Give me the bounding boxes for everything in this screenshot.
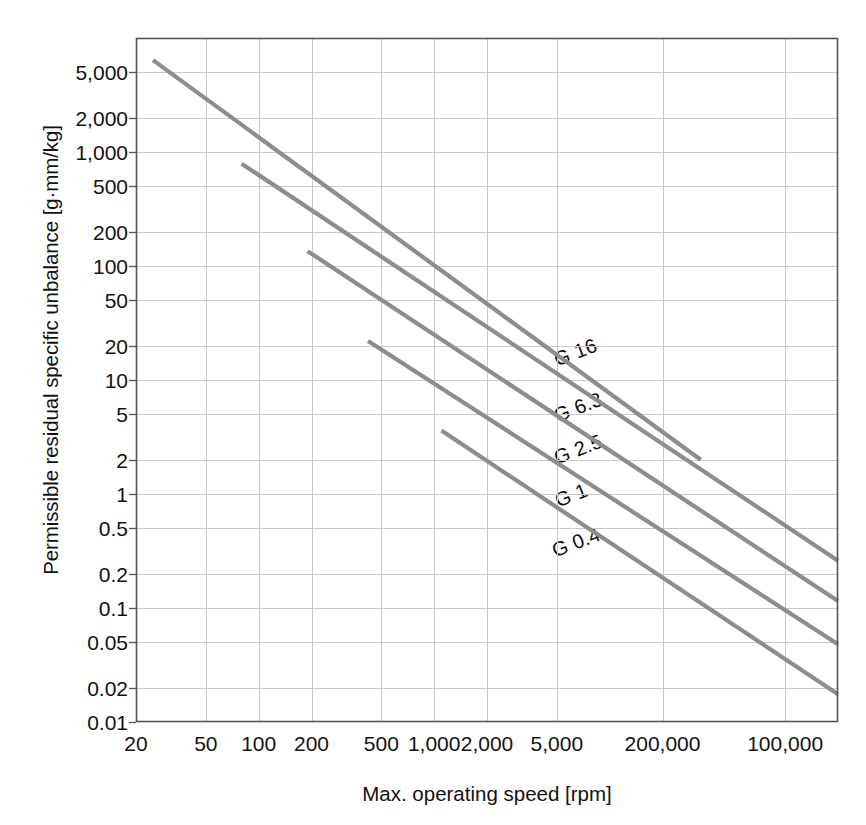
y-axis-tick-label: 2: [56, 449, 128, 470]
y-axis-tick-label: 20: [56, 335, 128, 356]
y-axis-tick-label: 2,000: [56, 107, 128, 128]
y-axis-tick-label: 500: [56, 176, 128, 197]
y-axis-tick-label: 5,000: [56, 62, 128, 83]
data-line-g-16: [153, 60, 701, 460]
data-lines: [153, 60, 838, 694]
series-label-g-2-5: G 2.5: [551, 430, 606, 469]
x-axis-tick-label: 200: [294, 733, 329, 754]
x-axis-tick-label: 100: [241, 733, 276, 754]
y-axis-tick-label: 0.2: [56, 563, 128, 584]
x-axis-tick-label: 5,000: [531, 733, 584, 754]
data-line-g-6-3: [242, 164, 838, 561]
series-label-g-16: G 16: [551, 334, 600, 371]
y-axis-tick-label: 100: [56, 256, 128, 277]
chart-figure: Permissible residual specific unbalance …: [0, 0, 866, 825]
series-label-g-0-4: G 0.4: [549, 523, 604, 562]
plot-frame: [137, 39, 838, 722]
y-axis-tick-label: 0.02: [56, 677, 128, 698]
y-axis-tick-label: 0.05: [56, 632, 128, 653]
x-axis-tick-label: 500: [364, 733, 399, 754]
series-label-g-1: G 1: [552, 479, 591, 512]
plot-canvas: [0, 0, 866, 825]
y-axis-tick-label: 1,000: [56, 142, 128, 163]
gridlines: [129, 38, 838, 723]
y-axis-tick-label: 0.5: [56, 518, 128, 539]
x-axis-tick-label: 20: [124, 733, 147, 754]
series-label-g-6-3: G 6.3: [551, 388, 606, 427]
x-axis-tick-label: 1,000: [408, 733, 461, 754]
y-axis-tick-label: 0.01: [56, 712, 128, 733]
y-axis-tick-label: 10: [56, 370, 128, 391]
x-axis-tick-label: 50: [194, 733, 217, 754]
x-axis-tick-label: 200,000: [625, 733, 701, 754]
y-axis-tick-label: 200: [56, 221, 128, 242]
data-line-g-1: [368, 341, 838, 644]
x-axis-tick-label: 2,000: [461, 733, 514, 754]
x-axis-title: Max. operating speed [rpm]: [136, 782, 838, 806]
y-axis-tick-label: 50: [56, 290, 128, 311]
y-axis-tick-label: 1: [56, 484, 128, 505]
y-axis-tick-label: 0.1: [56, 598, 128, 619]
x-axis-tick-label: 100,000: [747, 733, 823, 754]
data-line-g-0-4: [441, 431, 838, 695]
y-axis-tick-label: 5: [56, 404, 128, 425]
